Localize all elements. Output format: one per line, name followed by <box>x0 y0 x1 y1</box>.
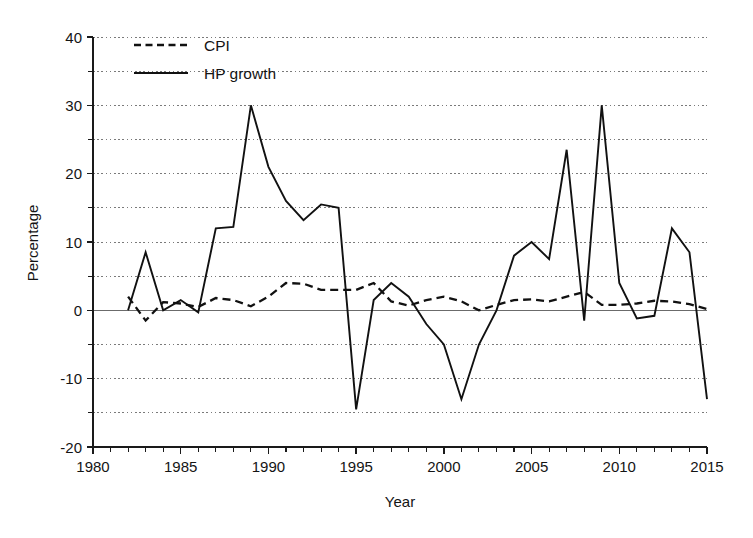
x-tick-label: 2010 <box>603 458 636 475</box>
legend-label-cpi: CPI <box>204 37 230 54</box>
x-tick-label: 2005 <box>515 458 548 475</box>
y-axis <box>87 37 93 447</box>
y-tick-label: 10 <box>65 234 82 251</box>
x-tick-label: 1995 <box>339 458 372 475</box>
y-tick-label: -10 <box>60 370 82 387</box>
line-chart: -20-10010203040 198019851990199520002005… <box>0 0 753 538</box>
y-tick-labels: -20-10010203040 <box>60 29 82 456</box>
x-tick-label: 2015 <box>690 458 723 475</box>
x-tick-label: 1980 <box>76 458 109 475</box>
y-tick-label: -20 <box>60 439 82 456</box>
series-line-hp-growth <box>128 105 707 409</box>
data-series <box>128 105 707 409</box>
legend: CPIHP growth <box>134 37 276 82</box>
chart-container: -20-10010203040 198019851990199520002005… <box>0 0 753 538</box>
y-tick-label: 40 <box>65 29 82 46</box>
x-tick-label: 1990 <box>252 458 285 475</box>
series-line-cpi <box>128 283 707 321</box>
x-axis <box>93 447 707 454</box>
x-tick-label: 2000 <box>427 458 460 475</box>
y-tick-label: 20 <box>65 165 82 182</box>
legend-label-hp-growth: HP growth <box>204 65 276 82</box>
x-tick-labels: 19801985199019952000200520102015 <box>76 458 723 475</box>
x-axis-title: Year <box>385 493 415 510</box>
y-axis-title: Percentage <box>24 205 41 282</box>
y-tick-label: 0 <box>74 302 82 319</box>
x-tick-label: 1985 <box>164 458 197 475</box>
y-tick-label: 30 <box>65 97 82 114</box>
